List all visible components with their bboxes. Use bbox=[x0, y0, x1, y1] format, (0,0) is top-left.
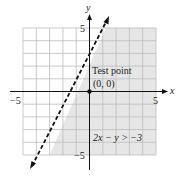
test-point-label: Test point bbox=[92, 66, 132, 76]
line-arrow-bottom-icon bbox=[30, 161, 36, 169]
line-arrow-top-icon bbox=[104, 16, 110, 25]
x-max-tick: 5 bbox=[153, 96, 158, 106]
y-axis-arrow-icon bbox=[87, 14, 92, 20]
y-axis-label: y bbox=[86, 3, 90, 13]
y-max-tick: 5 bbox=[80, 24, 85, 34]
test-point-coords: (0, 0) bbox=[93, 79, 115, 89]
test-point-marker bbox=[87, 89, 91, 93]
graph bbox=[0, 0, 177, 181]
y-min-tick: −5 bbox=[74, 151, 85, 161]
inequality-label: 2x − y > −3 bbox=[93, 133, 142, 143]
x-min-tick: −5 bbox=[10, 96, 21, 106]
x-axis-arrow-icon bbox=[162, 89, 168, 94]
x-axis-label: x bbox=[170, 86, 174, 96]
